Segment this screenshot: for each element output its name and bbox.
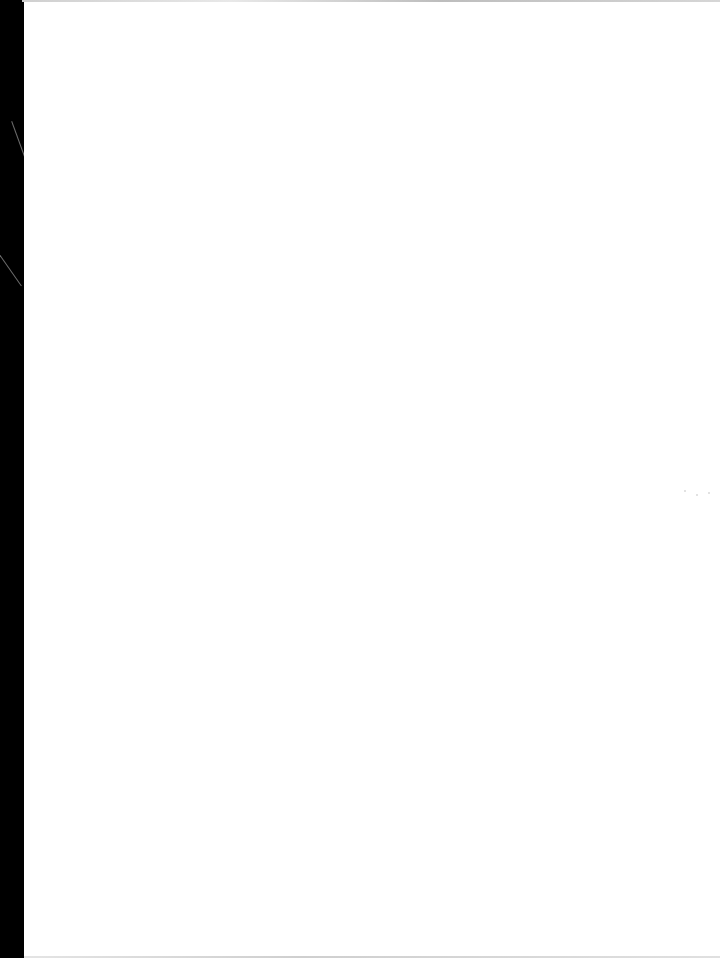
blank-page — [24, 2, 720, 956]
scan-speck — [684, 490, 686, 492]
scanned-document — [0, 0, 720, 958]
scan-speck — [696, 494, 698, 496]
scan-speck — [708, 492, 710, 494]
scan-left-border — [0, 0, 24, 958]
scan-artifact — [0, 249, 22, 286]
